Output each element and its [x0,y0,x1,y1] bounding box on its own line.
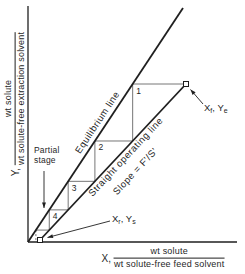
y-axis-denominator: wt solute-free extraction solvent [16,32,27,165]
y-axis-symbol: Y, [10,168,21,176]
x-axis-symbol: X, [102,253,111,264]
feed-point-label: Xf, Ye [204,102,228,114]
stage-number: 1 [136,86,141,96]
partial-stage-note-line2: stage [34,155,56,165]
y-axis-label: Y, wt solute wt solute-free extraction s… [4,32,27,176]
equilibrium-line-label: Equilibrium line [72,89,121,155]
raffinate-point-arrow-line [48,221,111,238]
x-axis-denominator: wt solute-free feed solvent [114,259,224,270]
x-axis-label: X, wt solute wt solute-free feed solvent [102,247,225,270]
stage-number: 4 [53,211,58,221]
partial-stage-note: Partial stage [34,145,60,165]
extraction-stage-diagram: 1234Equilibrium lineStraight operating l… [0,0,245,274]
x-axis-fraction: wt solute wt solute-free feed solvent [114,247,224,270]
stage-number: 3 [72,183,77,193]
feed-point-marker [184,82,189,87]
y-axis-fraction: wt solute wt solute-free extraction solv… [4,32,27,165]
raffinate-point-label: Xr, Ys [112,213,136,225]
x-axis-numerator: wt solute [114,247,224,259]
partial-stage-note-line1: Partial [34,145,60,155]
y-axis-numerator: wt solute [4,32,16,165]
raffinate-point-marker [38,238,43,243]
stage-number: 2 [98,142,103,152]
raffinate-point-arrow-head [48,234,54,238]
partial-stage-arrow-head [42,203,46,209]
